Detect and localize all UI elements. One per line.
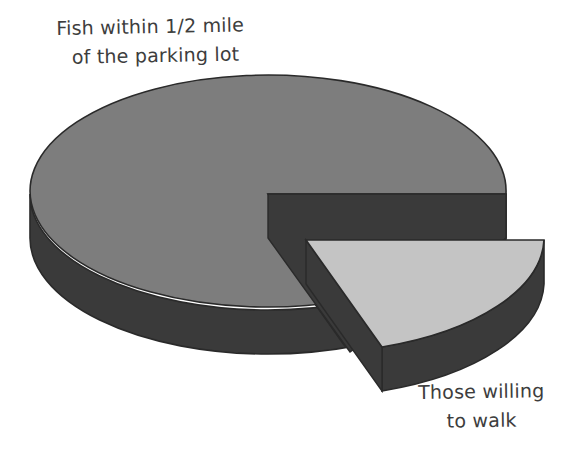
minor-slice-group <box>306 240 544 391</box>
minor-slice-label-line2: to walk <box>418 406 545 437</box>
major-slice-label: Fish within 1/2 mile of the parking lot <box>56 10 245 72</box>
pie-chart: Fish within 1/2 mile of the parking lot … <box>0 0 575 461</box>
minor-slice-label-line1: Those willing <box>418 376 545 407</box>
major-slice-label-line2: of the parking lot <box>57 40 245 73</box>
major-slice-label-line1: Fish within 1/2 mile <box>56 10 244 43</box>
minor-slice-label: Those willing to walk <box>418 376 545 437</box>
